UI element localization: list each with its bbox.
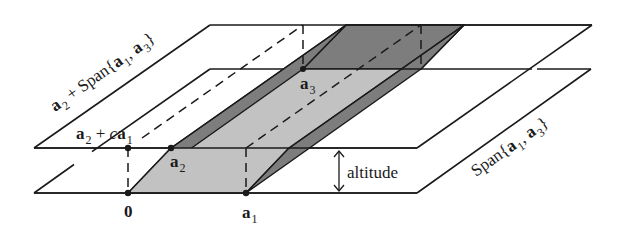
a2-sub: 2	[180, 161, 186, 175]
a1-label: a1	[242, 203, 258, 226]
altitude-arrow	[334, 151, 344, 191]
diagram-canvas: altitude 0 a1 a2 a3 a2 + ca1 a2 + Span{a…	[0, 0, 626, 228]
point-a1	[243, 190, 249, 196]
lower-plane-left-edge-visible	[34, 165, 74, 194]
a3-sub: 3	[310, 83, 316, 97]
a2-plus-ca1-plus: +	[92, 124, 110, 143]
upper-plane-label: a2 + Span{a1, a3}	[46, 29, 160, 119]
point-origin	[125, 190, 131, 196]
a2-plus-ca1-sub2: 1	[127, 133, 133, 147]
origin-label: 0	[124, 202, 133, 221]
altitude-label: altitude	[347, 163, 398, 182]
a2-plus-ca1-vec2: a	[117, 124, 126, 143]
point-a2	[168, 145, 174, 151]
upper-label-span: + Span{	[59, 56, 119, 106]
parallelepiped-diagram: altitude 0 a1 a2 a3 a2 + ca1 a2 + Span{a…	[0, 0, 626, 228]
front-face	[128, 148, 289, 193]
point-a3	[300, 66, 306, 72]
upper-plane-label-group: a2 + Span{a1, a3}	[46, 29, 160, 119]
a2-plus-ca1-vec: a	[76, 124, 85, 143]
a1-sub: 1	[252, 212, 258, 226]
a2-vec: a	[170, 152, 179, 171]
a1-vec: a	[242, 203, 251, 222]
a3-vec: a	[300, 74, 309, 93]
